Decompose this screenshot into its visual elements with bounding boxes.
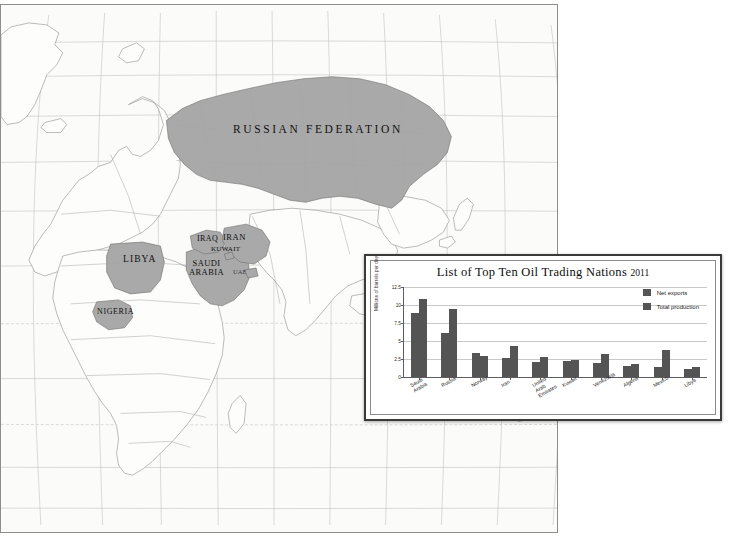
chart-bar (532, 362, 540, 377)
chart-x-tick-label: Libya (683, 377, 697, 388)
chart-bar-group (465, 287, 495, 377)
chart-bar (411, 313, 419, 377)
chart-bar (692, 367, 700, 377)
page-background: .ln{fill:none;stroke:#c3c3c3;stroke-widt… (0, 0, 738, 544)
chart-legend-item: Net exports (643, 289, 699, 296)
chart-bar-group (404, 287, 434, 377)
chart-legend-swatch (643, 303, 651, 310)
chart-x-label-slot: Norway (464, 381, 494, 423)
chart-bar (441, 333, 449, 377)
chart-bar (623, 366, 631, 377)
chart-x-label-slot: Mexico (646, 381, 676, 423)
chart-title-text: List of Top Ten Oil Trading Nations (437, 265, 627, 279)
chart-bar (449, 309, 457, 377)
chart-legend-label: Net exports (657, 290, 688, 296)
chart-bar-group (434, 287, 464, 377)
chart-x-label-slot: Iran (494, 381, 524, 423)
chart-x-axis-labels: Saudi ArabiaRussiaNorwayIranUnited Arab … (403, 381, 707, 423)
chart-bar (684, 369, 692, 377)
chart-y-tick-label: 12.5 (392, 285, 401, 290)
chart-bar (510, 346, 518, 377)
chart-x-label-slot: Libya (677, 381, 707, 423)
chart-title: List of Top Ten Oil Trading Nations 2011 (371, 265, 715, 280)
chart-x-label-slot: Saudi Arabia (403, 381, 433, 423)
chart-x-tick-mark (510, 377, 511, 380)
chart-title-year: 2011 (631, 268, 650, 278)
chart-bar (472, 353, 480, 377)
chart-legend-item: Total production (643, 303, 699, 310)
chart-bar-group (555, 287, 585, 377)
chart-y-tick-mark (401, 377, 404, 378)
chart-x-label-slot: Algeria (616, 381, 646, 423)
chart-bar (593, 363, 601, 377)
chart-x-label-slot: Russia (433, 381, 463, 423)
chart-x-label-slot: Venezuela (585, 381, 615, 423)
chart-bar-group (525, 287, 555, 377)
chart-x-label-slot: United Arab Emirates (525, 381, 555, 423)
chart-bar-group (495, 287, 525, 377)
chart-bar (654, 367, 662, 377)
chart-bar-group (586, 287, 616, 377)
chart-plot-area: Millions of barrels per day 02.557.51012… (371, 283, 713, 414)
chart-inner-frame: List of Top Ten Oil Trading Nations 2011… (370, 260, 716, 415)
chart-bar (662, 350, 670, 377)
chart-y-tick-label: 2.5 (394, 357, 401, 362)
chart-legend-swatch (643, 289, 651, 296)
chart-bar (563, 361, 571, 377)
chart-x-label-slot: Kuwait (555, 381, 585, 423)
chart-y-tick-label: 7.5 (394, 321, 401, 326)
chart-bar (419, 299, 427, 377)
chart-inset-panel: List of Top Ten Oil Trading Nations 2011… (364, 254, 722, 421)
chart-y-axis-label: Millions of barrels per day (374, 253, 379, 311)
chart-legend-label: Total production (657, 304, 699, 310)
chart-bar (502, 358, 510, 377)
chart-legend: Net exportsTotal production (643, 289, 699, 310)
